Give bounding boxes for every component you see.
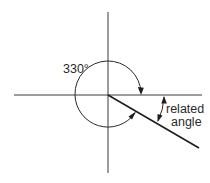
- arrowhead-icon: [138, 87, 144, 95]
- related-angle-label-line2: angle: [171, 115, 202, 129]
- arrowhead-icon: [129, 112, 137, 120]
- arrowhead-icon: [158, 114, 163, 122]
- angle-diagram: 330° related angle: [0, 0, 210, 183]
- related-angle-label-line1: related: [166, 102, 204, 116]
- angle-label-330: 330°: [63, 62, 89, 76]
